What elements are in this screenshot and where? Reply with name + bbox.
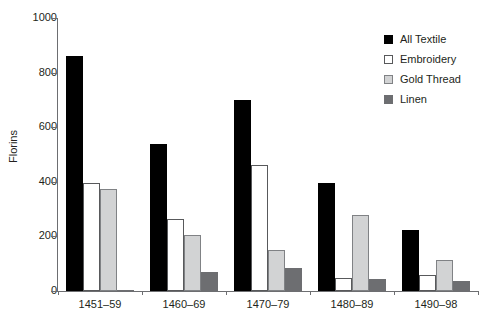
x-axis-tick-label: 1460–69 <box>142 298 226 310</box>
x-axis-tick-mark <box>478 291 479 295</box>
x-axis-tick-mark <box>142 291 143 295</box>
bar <box>167 219 184 291</box>
bar <box>83 183 100 291</box>
y-axis-tick: 400 <box>0 182 57 183</box>
legend-label: Gold Thread <box>400 74 461 85</box>
legend-swatch-icon <box>384 75 393 84</box>
x-axis-tick-mark <box>226 291 227 295</box>
legend-item[interactable]: All Textile <box>384 31 461 48</box>
legend-label: All Textile <box>400 34 446 45</box>
x-axis-line <box>57 291 478 292</box>
y-axis-tick: 600 <box>0 127 57 128</box>
legend-label: Linen <box>400 94 427 105</box>
legend-swatch-icon <box>384 35 393 44</box>
x-axis-tick-mark <box>394 291 395 295</box>
y-axis-tick: 1000 <box>0 18 57 19</box>
bar-group <box>234 18 302 291</box>
x-axis-tick-mark <box>310 291 311 295</box>
bar <box>201 272 218 291</box>
y-axis-tick: 0 <box>0 291 57 292</box>
legend-item[interactable]: Embroidery <box>384 51 461 68</box>
legend-item[interactable]: Gold Thread <box>384 71 461 88</box>
x-axis-tick-label: 1470–79 <box>226 298 310 310</box>
x-axis-tick-label: 1451–59 <box>58 298 142 310</box>
legend-swatch-icon <box>384 95 393 104</box>
bar <box>234 100 251 291</box>
bar <box>453 281 470 291</box>
bar <box>150 144 167 291</box>
bar <box>436 260 453 291</box>
bar <box>335 278 352 291</box>
bar <box>352 215 369 291</box>
bar <box>66 56 83 291</box>
y-axis-tick: 800 <box>0 73 57 74</box>
bar <box>251 165 268 291</box>
bar <box>117 290 134 291</box>
bar <box>268 250 285 291</box>
x-axis-tick-mark <box>58 291 59 295</box>
bar <box>285 268 302 291</box>
bar <box>318 183 335 291</box>
chart-legend: All TextileEmbroideryGold ThreadLinen <box>384 31 461 111</box>
y-axis-tick: 200 <box>0 236 57 237</box>
bar-chart: Florins 02004006008001000 1451–591460–69… <box>0 0 496 323</box>
x-axis-tick-label: 1490–98 <box>394 298 478 310</box>
bar <box>369 279 386 291</box>
bar <box>402 230 419 291</box>
bar <box>184 235 201 292</box>
bar <box>100 189 117 291</box>
legend-swatch-icon <box>384 55 393 64</box>
legend-item[interactable]: Linen <box>384 91 461 108</box>
bar-group <box>318 18 386 291</box>
bar-group <box>150 18 218 291</box>
legend-label: Embroidery <box>400 54 456 65</box>
x-axis-tick-label: 1480–89 <box>310 298 394 310</box>
bar <box>419 275 436 291</box>
bar-group <box>66 18 134 291</box>
